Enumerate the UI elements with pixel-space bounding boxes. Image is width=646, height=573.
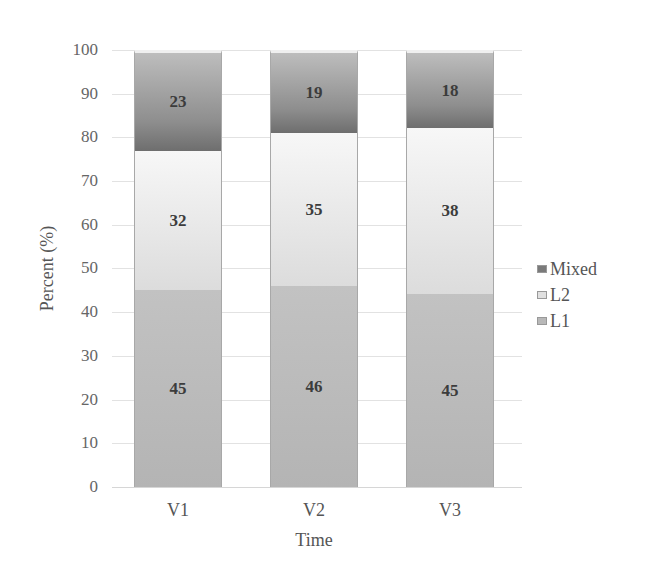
y-tick: 80 [70,128,98,145]
bar-segment-l1: 45 [406,294,494,487]
data-label: 18 [442,81,459,101]
bar-v1: 23 32 45 [134,50,222,487]
legend: Mixed L2 L1 [537,256,597,334]
y-tick: 40 [70,303,98,320]
y-tick: 0 [70,478,98,495]
bar-segment-l2: 38 [406,128,494,294]
bar-segment-l2: 32 [134,151,222,290]
legend-item-l1: L1 [537,308,597,334]
legend-label: L1 [550,311,570,332]
y-tick: 10 [70,434,98,451]
legend-swatch-icon [537,291,547,299]
bar-segment-l2: 35 [270,133,358,286]
legend-label: Mixed [550,259,597,280]
y-tick: 90 [70,85,98,102]
bar-segment-l1: 46 [270,286,358,487]
legend-item-mixed: Mixed [537,256,597,282]
legend-item-l2: L2 [537,282,597,308]
data-label: 46 [306,377,323,397]
y-tick: 70 [70,172,98,189]
bar-segment-l1: 45 [134,290,222,487]
bar-segment-mixed: 23 [134,50,222,151]
y-tick: 20 [70,391,98,408]
y-tick: 50 [70,259,98,276]
legend-swatch-icon [537,317,547,325]
legend-label: L2 [550,285,570,306]
x-tick: V1 [134,500,222,521]
data-label: 45 [442,381,459,401]
bar-v2: 19 35 46 [270,50,358,487]
x-axis-line [112,487,522,488]
data-label: 35 [306,200,323,220]
y-tick: 60 [70,216,98,233]
bar-segment-mixed: 19 [270,50,358,133]
x-tick: V2 [270,500,358,521]
data-label: 45 [170,379,187,399]
y-tick: 100 [70,41,98,58]
data-label: 32 [170,211,187,231]
bar-segment-mixed: 18 [406,50,494,128]
data-label: 38 [442,201,459,221]
x-axis-label: Time [270,530,358,551]
data-label: 19 [306,83,323,103]
y-axis-label: Percent (%) [37,214,58,324]
y-tick: 30 [70,347,98,364]
bar-v3: 18 38 45 [406,50,494,487]
x-tick: V3 [406,500,494,521]
data-label: 23 [170,92,187,112]
legend-swatch-icon [537,265,547,273]
